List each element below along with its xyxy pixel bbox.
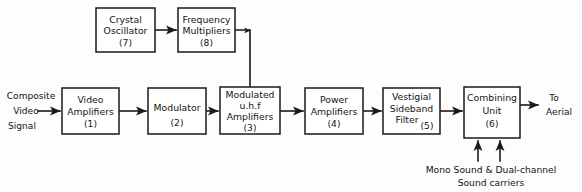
block-video-amplifiers[interactable]: Video Amplifiers (1) [62, 88, 119, 134]
vestigial-sideband-filter-number: (5) [421, 121, 434, 131]
combining-unit-line-1: Combining [467, 92, 517, 103]
combining-unit-line-2: Unit [483, 105, 502, 116]
frequency-multipliers-line-2: Multipliers [182, 25, 230, 36]
input-signal-line-3: Signal [8, 121, 36, 131]
modulated-uhf-amplifiers-line-2: u.h.f [240, 100, 262, 111]
label-sound-carriers-caption: Mono Sound & Dual-channel Sound carriers [426, 164, 557, 188]
block-crystal-oscillator[interactable]: Crystal Oscillator (7) [96, 8, 155, 52]
label-output-aerial: To Aerial [546, 93, 572, 117]
crystal-oscillator-number: (7) [119, 38, 132, 48]
modulated-uhf-amplifiers-number: (3) [244, 123, 257, 133]
sound-carriers-line-1: Mono Sound & Dual-channel [426, 164, 557, 175]
block-modulator[interactable]: Modulator (2) [148, 88, 206, 134]
block-frequency-multipliers[interactable]: Frequency Multipliers (8) [178, 8, 235, 52]
video-amplifiers-line-1: Video [77, 94, 103, 105]
modulator-number: (2) [171, 118, 184, 128]
vestigial-sideband-filter-line-3: Filter [395, 114, 418, 125]
block-modulated-uhf-amplifiers[interactable]: Modulated u.h.f Amplifiers (3) [220, 87, 280, 134]
block-power-amplifiers[interactable]: Power Amplifiers (4) [305, 88, 363, 134]
crystal-oscillator-line-1: Crystal [109, 14, 142, 25]
modulated-uhf-amplifiers-line-1: Modulated [225, 89, 274, 100]
modulator-line-1: Modulator [154, 102, 201, 113]
block-vestigial-sideband-filter[interactable]: Vestigial Sideband Filter (5) [383, 88, 440, 134]
power-amplifiers-line-2: Amplifiers [311, 106, 358, 117]
frequency-multipliers-number: (8) [200, 38, 213, 48]
block-diagram: Crystal Oscillator (7) Frequency Multipl… [0, 0, 582, 192]
input-signal-line-1: Composite [7, 91, 56, 101]
power-amplifiers-line-1: Power [320, 94, 348, 105]
sound-carriers-line-2: Sound carriers [458, 177, 525, 188]
block-combining-unit[interactable]: Combining Unit (6) [464, 87, 520, 138]
input-signal-line-2: Video [13, 106, 39, 116]
power-amplifiers-number: (4) [328, 119, 341, 129]
modulated-uhf-amplifiers-line-3: Amplifiers [227, 111, 274, 122]
combining-unit-number: (6) [486, 119, 499, 129]
video-amplifiers-number: (1) [84, 119, 97, 129]
vestigial-sideband-filter-line-1: Vestigial [392, 91, 431, 102]
crystal-oscillator-line-2: Oscillator [104, 25, 148, 36]
wire-multipliers-to-uhf-amplifiers [236, 30, 250, 86]
diagram-canvas: Crystal Oscillator (7) Frequency Multipl… [0, 0, 582, 192]
frequency-multipliers-line-1: Frequency [182, 14, 231, 25]
video-amplifiers-line-2: Amplifiers [67, 106, 114, 117]
vestigial-sideband-filter-line-2: Sideband [390, 103, 434, 114]
output-aerial-line-2: Aerial [546, 107, 572, 117]
output-aerial-line-1: To [548, 93, 559, 103]
